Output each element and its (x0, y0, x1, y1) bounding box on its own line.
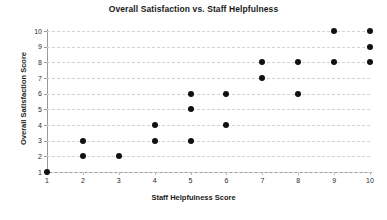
y-tick-label-7: 7 (26, 75, 42, 82)
gridline-y-5 (47, 109, 370, 110)
gridline-y-10 (47, 31, 370, 32)
gridline-y-1 (47, 172, 370, 173)
data-point (331, 59, 337, 65)
x-tick-label-8: 8 (288, 177, 308, 184)
x-tick-label-2: 2 (73, 177, 93, 184)
gridline-y-6 (47, 94, 370, 95)
x-axis-title: Staff Helpfulness Score (0, 193, 387, 202)
data-point (223, 122, 229, 128)
data-point (223, 91, 229, 97)
data-point (259, 59, 265, 65)
y-tick-label-9: 9 (26, 43, 42, 50)
x-tick-label-7: 7 (252, 177, 272, 184)
y-tick-label-10: 10 (26, 28, 42, 35)
data-point (367, 59, 373, 65)
data-point (259, 75, 265, 81)
x-tick-label-9: 9 (324, 177, 344, 184)
data-point (367, 28, 373, 34)
y-tick-label-8: 8 (26, 59, 42, 66)
data-point (188, 106, 194, 112)
data-point (295, 91, 301, 97)
data-point (188, 138, 194, 144)
data-point (80, 138, 86, 144)
x-tick-label-6: 6 (216, 177, 236, 184)
x-tick-label-4: 4 (145, 177, 165, 184)
x-tick-label-3: 3 (109, 177, 129, 184)
x-tick-mark-10 (370, 172, 371, 175)
chart-title: Overall Satisfaction vs. Staff Helpfulne… (0, 4, 387, 14)
data-point (152, 138, 158, 144)
x-tick-label-10: 10 (360, 177, 380, 184)
scatter-chart: Overall Satisfaction vs. Staff Helpfulne… (0, 0, 387, 220)
x-tick-label-5: 5 (181, 177, 201, 184)
y-tick-label-2: 2 (26, 153, 42, 160)
y-tick-label-3: 3 (26, 137, 42, 144)
data-point (80, 153, 86, 159)
data-point (116, 153, 122, 159)
y-tick-label-5: 5 (26, 106, 42, 113)
data-point (188, 91, 194, 97)
x-tick-label-1: 1 (37, 177, 57, 184)
gridline-y-7 (47, 78, 370, 79)
gridline-y-2 (47, 156, 370, 157)
gridline-y-4 (47, 125, 370, 126)
data-point (295, 59, 301, 65)
data-point (44, 169, 50, 175)
y-axis-tick-labels: 12345678910 (24, 0, 42, 220)
y-tick-label-4: 4 (26, 122, 42, 129)
gridline-y-9 (47, 47, 370, 48)
gridline-y-8 (47, 62, 370, 63)
y-tick-label-6: 6 (26, 90, 42, 97)
data-point (331, 28, 337, 34)
data-point (152, 122, 158, 128)
y-tick-label-1: 1 (26, 169, 42, 176)
gridline-y-3 (47, 141, 370, 142)
data-point (367, 44, 373, 50)
plot-area (47, 31, 370, 172)
